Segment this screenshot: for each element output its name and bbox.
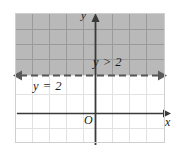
inequality-graph-figure: y > 2 y = 2 O x y — [0, 0, 180, 152]
inequality-label: y > 2 — [93, 56, 122, 69]
origin-label: O — [84, 114, 93, 126]
coordinate-plane-svg — [0, 0, 180, 152]
x-axis-label: x — [165, 116, 170, 128]
y-axis-label: y — [81, 10, 86, 21]
boundary-line-label: y = 2 — [33, 80, 62, 93]
